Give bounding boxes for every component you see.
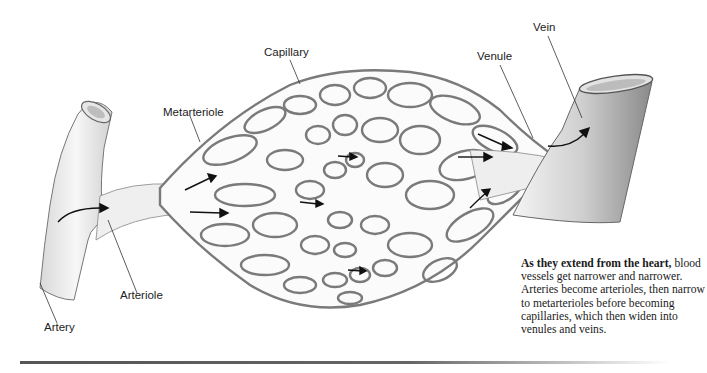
bottom-rule	[20, 361, 670, 364]
label-arteriole: Arteriole	[120, 289, 163, 301]
label-capillary: Capillary	[264, 46, 309, 58]
figure-caption: As they extend from the heart, blood ves…	[521, 257, 707, 336]
vessel-diagram: Capillary Metarteriole Arteriole Artery …	[0, 0, 707, 373]
label-vein: Vein	[533, 21, 555, 33]
label-artery: Artery	[44, 321, 75, 333]
caption-lead: As they extend from the heart,	[521, 257, 671, 270]
label-venule: Venule	[477, 50, 512, 62]
label-metarteriole: Metarteriole	[163, 106, 224, 118]
